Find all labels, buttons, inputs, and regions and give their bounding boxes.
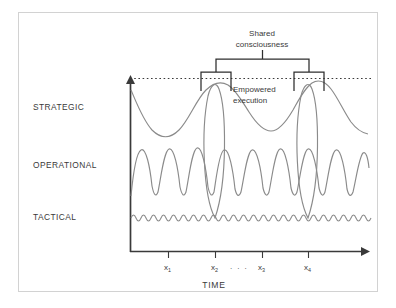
tick-label-x2: x2: [211, 263, 218, 273]
figure-canvas: STRATEGIC OPERATIONAL TACTICAL x1 x2 x3: [0, 0, 396, 308]
empowered-execution-line2: execution: [233, 96, 267, 105]
label-empowered-execution: Empowered execution: [233, 85, 276, 105]
row-label-tactical: TACTICAL: [33, 212, 76, 222]
curve-operational: [131, 148, 369, 196]
label-shared-consciousness: Shared consciousness: [236, 29, 288, 49]
empowered-execution-spike-2: [297, 85, 318, 218]
empowered-execution-line1: Empowered: [233, 85, 276, 94]
x-axis-title: TIME: [202, 280, 226, 290]
shared-consciousness-line2: consciousness: [236, 40, 288, 49]
tick-label-x3: x3: [258, 263, 265, 273]
empowered-execution-spike-1: [204, 85, 225, 218]
bracket-empowered-execution-right: [294, 72, 324, 91]
x-axis-ticks: [169, 252, 309, 258]
curve-tactical: [131, 215, 371, 221]
diagram-svg-container: STRATEGIC OPERATIONAL TACTICAL x1 x2 x3: [0, 0, 396, 308]
x-axis-tick-labels: x1 x2 x3 x4 . . .: [164, 262, 311, 273]
tick-gap-ellipsis: . . .: [230, 262, 248, 271]
row-label-strategic: STRATEGIC: [33, 102, 84, 112]
shared-consciousness-line1: Shared: [249, 29, 275, 38]
tick-label-x1: x1: [164, 263, 171, 273]
bracket-empowered-execution-left: [201, 72, 231, 91]
tick-label-x4: x4: [304, 263, 311, 273]
row-label-operational: OPERATIONAL: [33, 160, 97, 170]
bracket-shared-consciousness: [216, 50, 309, 72]
